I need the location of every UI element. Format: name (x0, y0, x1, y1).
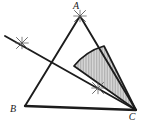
triangle-side-ab (25, 16, 80, 106)
arc-cross-on-bisector-left (16, 37, 29, 49)
vertex-label-a: A (72, 0, 80, 11)
arc-cross-at-a (74, 10, 87, 22)
vertex-label-c: C (129, 111, 136, 121)
geometry-figure-canvas: A B C (0, 0, 145, 121)
shaded-angle-sector (74, 46, 136, 110)
geometry-figure-root: A B C (0, 0, 145, 121)
arc-cross-midfigure (92, 82, 105, 94)
vertex-label-b: B (10, 103, 16, 114)
triangle-side-bc (25, 106, 136, 110)
